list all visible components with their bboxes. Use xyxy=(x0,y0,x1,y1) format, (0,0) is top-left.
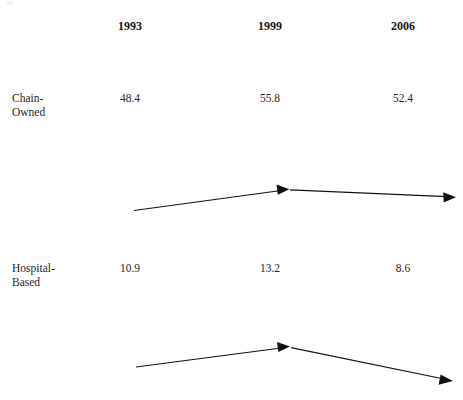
row-label-chain-owned: Chain- Owned xyxy=(12,92,92,119)
value-hospital-based-1993: 10.9 xyxy=(85,262,175,276)
row-label-chain-owned-line2: Owned xyxy=(12,106,92,120)
row-label-hospital-based-line2: Based xyxy=(12,276,92,290)
chain-owned-arrowhead-1999 xyxy=(277,185,290,195)
row-label-chain-owned-line1: Chain- xyxy=(12,92,92,106)
hospital-based-segment-2 xyxy=(291,348,444,379)
trend-arrow-layer xyxy=(0,0,463,400)
column-header-1999: 1999 xyxy=(225,20,315,34)
hospital-based-arrowhead-2006 xyxy=(439,375,453,385)
chain-owned-segment-2 xyxy=(290,190,447,197)
value-hospital-based-1999: 13.2 xyxy=(225,262,315,276)
value-chain-owned-1993: 48.4 xyxy=(85,92,175,106)
value-chain-owned-2006: 52.4 xyxy=(358,92,448,106)
scan-artifact xyxy=(6,1,13,5)
value-hospital-based-2006: 8.6 xyxy=(358,262,448,276)
hospital-based-segment-1 xyxy=(136,348,281,367)
column-header-2006: 2006 xyxy=(358,20,448,34)
chain-owned-segment-1 xyxy=(134,191,281,211)
hospital-based-arrowhead-1999 xyxy=(277,342,290,352)
chain-owned-trend-arrow xyxy=(134,185,456,211)
row-label-hospital-based: Hospital- Based xyxy=(12,262,92,289)
chain-owned-arrowhead-2006 xyxy=(443,192,456,202)
row-label-hospital-based-line1: Hospital- xyxy=(12,262,92,276)
hospital-based-trend-arrow xyxy=(136,342,453,385)
column-header-1993: 1993 xyxy=(85,20,175,34)
value-chain-owned-1999: 55.8 xyxy=(225,92,315,106)
figure-canvas: 1993 1999 2006 Chain- Owned 48.4 55.8 52… xyxy=(0,0,463,400)
